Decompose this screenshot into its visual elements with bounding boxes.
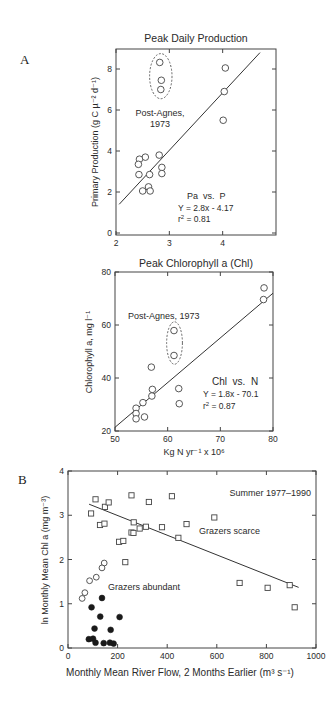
x-tick-label: 200 (111, 651, 125, 661)
x-tick-label: 800 (259, 651, 273, 661)
y-axis-label: Primary Production (g C µ⁻² d⁻¹) (90, 77, 100, 207)
data-point-open-circle (147, 188, 154, 195)
x-tick-label: 80 (268, 434, 278, 444)
x-tick-label: 0 (66, 651, 71, 661)
x-tick-label: 50 (110, 434, 120, 444)
data-point-filled-circle (99, 595, 105, 601)
regression-line (119, 53, 260, 205)
chart-title: Peak Chlorophyll a (Chl) (139, 257, 253, 269)
y-tick-label: 0 (107, 228, 112, 238)
data-point-square (102, 521, 107, 526)
data-point-open-circle (93, 574, 99, 580)
data-point-open-circle (159, 164, 166, 171)
y-axis-label: Chlorophyll a, mg l⁻¹ (84, 311, 94, 394)
data-point-square (237, 580, 242, 585)
data-point-square (143, 524, 148, 529)
y-tick-label: 40 (102, 373, 112, 383)
data-point-square (121, 538, 126, 543)
y-tick-label: 3 (59, 510, 64, 520)
x-axis-label: Monthly Mean River Flow, 2 Months Earlie… (66, 667, 294, 678)
regression-line (89, 504, 299, 587)
data-point-open-circle (261, 285, 268, 292)
chart-title: Peak Daily Production (144, 32, 247, 44)
data-point-open-circle (79, 596, 85, 602)
annotation-post-agnes-1: Post-Agnes, (135, 108, 184, 118)
chart-peak-daily-production: Peak Daily Production 23402468 Primary P… (90, 32, 276, 248)
data-point-open-circle (149, 386, 156, 393)
data-point-square (106, 500, 111, 505)
y-tick-label: 2 (59, 555, 64, 565)
y-tick-label: 1 (59, 599, 64, 609)
data-point-open-circle (82, 590, 88, 596)
data-point-open-circle (220, 117, 227, 124)
data-point-open-circle (158, 86, 165, 93)
data-point-square (169, 494, 174, 499)
data-point-square (88, 511, 93, 516)
data-point-square (265, 585, 270, 590)
data-point-open-circle (148, 364, 155, 371)
data-point-square (131, 520, 136, 525)
data-point-square (146, 499, 151, 504)
data-point-open-circle (175, 385, 182, 392)
data-point-open-circle (221, 88, 228, 95)
data-point-filled-circle (93, 640, 99, 646)
data-point-square (129, 493, 134, 498)
annotation-relation: Pa vs. P (187, 191, 226, 201)
x-axis-label: Kg N yr⁻¹ x 10⁶ (163, 447, 225, 457)
data-point-open-circle (133, 416, 140, 423)
x-tick-label: 600 (210, 651, 224, 661)
data-point-filled-circle (97, 614, 103, 620)
data-point-filled-circle (89, 604, 95, 610)
annotation-equation: Y = 1.8x - 70.1 (203, 389, 259, 399)
data-point-open-circle (171, 327, 178, 334)
data-point-square (93, 497, 98, 502)
data-point-open-circle (139, 188, 146, 195)
data-point-filled-circle (111, 641, 117, 647)
y-tick-label: 8 (107, 64, 112, 74)
data-point-filled-circle (101, 640, 107, 646)
figure: A Peak Daily Production 23402468 Primary… (0, 0, 335, 703)
data-point-square (292, 605, 297, 610)
data-point-open-circle (135, 161, 142, 168)
x-tick-label: 400 (160, 651, 174, 661)
data-point-open-circle (176, 400, 183, 407)
data-points (133, 285, 268, 423)
data-point-open-circle (140, 399, 147, 406)
y-tick-label: 4 (107, 146, 112, 156)
panel-label-a: A (20, 52, 30, 67)
annotation-grazers-scarce: Grazers scarce (199, 526, 260, 536)
axis-ticks: 5060708020406080 (102, 267, 278, 444)
data-point-square (176, 535, 181, 540)
x-tick-label: 1000 (307, 651, 326, 661)
chart-chl-vs-river-flow: 0200400600800100001234 ln Monthly Mean C… (40, 466, 326, 678)
data-point-open-circle (156, 152, 163, 159)
data-point-square (287, 583, 292, 588)
x-tick-label: 3 (167, 238, 172, 248)
annotation-equation: Y = 2.8x - 4.17 (178, 203, 234, 213)
y-tick-label: 6 (107, 105, 112, 115)
data-point-square (131, 530, 136, 535)
data-point-square (212, 515, 217, 520)
data-point-open-circle (141, 414, 148, 421)
data-point-filled-circle (117, 614, 123, 620)
data-point-open-circle (158, 77, 165, 84)
data-point-filled-circle (108, 627, 114, 633)
data-point-square (137, 526, 142, 531)
data-points (79, 493, 297, 647)
data-point-open-circle (99, 565, 105, 571)
y-tick-label: 4 (59, 466, 64, 476)
data-point-open-circle (87, 578, 93, 584)
annotation-r2: r2 = 0.81 (178, 214, 211, 224)
x-tick-label: 70 (216, 434, 226, 444)
x-tick-label: 60 (163, 434, 173, 444)
annotation-grazers-abundant: Grazers abundant (108, 582, 181, 592)
data-point-square (159, 525, 164, 530)
data-point-open-circle (146, 171, 153, 178)
y-tick-label: 0 (59, 643, 64, 653)
annotation-r2: r2 = 0.87 (203, 401, 236, 411)
data-point-square (123, 560, 128, 565)
data-point-open-circle (171, 352, 178, 359)
x-tick-label: 4 (220, 238, 225, 248)
data-point-open-circle (222, 65, 229, 72)
x-tick-label: 2 (114, 238, 119, 248)
